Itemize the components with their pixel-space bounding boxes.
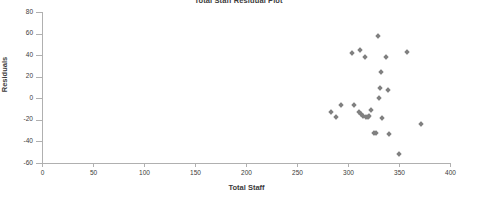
y-axis-tick-label: -40 [24,137,33,144]
chart-title: Total Staff Residual Plot [0,0,477,5]
x-axis-tick: 150 [195,163,196,167]
x-axis-tick: 50 [93,163,94,167]
x-axis-tick: 250 [297,163,298,167]
residual-plot-chart: Total Staff Residual Plot -60-40-2002040… [0,0,477,203]
x-axis-tick: 0 [42,163,43,167]
y-axis-tick-label: 60 [26,29,33,36]
x-axis-tick-label: 400 [445,169,456,176]
x-axis-tick-label: 50 [90,169,97,176]
x-axis-tick: 350 [399,163,400,167]
x-axis-tick: 200 [246,163,247,167]
x-axis-tick-label: 0 [41,169,45,176]
x-axis-tick-label: 150 [190,169,201,176]
x-axis-tick: 300 [348,163,349,167]
y-axis-tick-label: 40 [26,51,33,58]
y-axis-tick-label: -60 [24,159,33,166]
x-axis-tick-label: 100 [139,169,150,176]
x-axis-tick-label: 350 [394,169,405,176]
y-axis-tick-label: -20 [24,115,33,122]
y-axis-title: Residuals [0,45,9,105]
x-axis-title: Total Staff [42,183,451,192]
y-axis-tick-label: 80 [26,8,33,15]
y-axis-tick-label: 0 [29,94,33,101]
x-axis-tick-label: 250 [292,169,303,176]
x-axis-tick: 400 [450,163,451,167]
x-axis-tick-label: 300 [343,169,354,176]
x-axis-tick-label: 200 [241,169,252,176]
y-axis-tick-label: 20 [26,72,33,79]
x-axis-tick: 100 [144,163,145,167]
